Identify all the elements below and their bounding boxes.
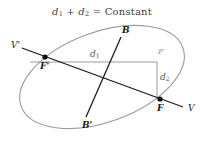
label-d1: d1 — [90, 50, 100, 59]
ellipse-diagram — [0, 0, 204, 146]
label-d1-sub: 1 — [96, 52, 100, 59]
label-v-prime: V' — [11, 41, 20, 50]
label-v: V — [188, 104, 195, 113]
label-d2-sub: 2 — [166, 75, 170, 82]
focus-f-dot — [157, 96, 162, 101]
focus-f-prime-dot — [42, 54, 47, 59]
label-b: B — [122, 26, 130, 35]
label-d2: d2 — [160, 73, 170, 82]
label-f: F — [157, 104, 163, 113]
label-p: P — [158, 48, 163, 56]
label-f-prime: F' — [40, 62, 49, 71]
label-b-prime: B' — [82, 121, 92, 130]
